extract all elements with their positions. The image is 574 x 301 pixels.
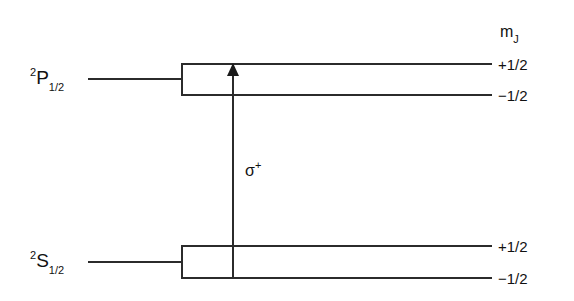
polarization-sigma: σ bbox=[245, 162, 255, 179]
mj-header-symbol: m bbox=[500, 23, 513, 40]
sublevel-line-lower-plus-half bbox=[181, 245, 492, 247]
mj-column-header: mJ bbox=[500, 24, 519, 43]
transition-arrow-head bbox=[227, 63, 239, 76]
level-box-left-edge-upper bbox=[181, 63, 183, 95]
polarization-charge: + bbox=[255, 159, 261, 171]
mj-label-upper-plus-half: +1/2 bbox=[498, 57, 528, 72]
mj-label-lower-minus-half: −1/2 bbox=[498, 271, 528, 286]
term-symbol-upper: 2P1/2 bbox=[30, 68, 64, 90]
term-subscript-upper: 1/2 bbox=[49, 81, 64, 93]
term-subscript-lower: 1/2 bbox=[49, 264, 64, 276]
transition-arrow-shaft bbox=[232, 69, 234, 278]
term-letter-lower: S bbox=[36, 250, 49, 271]
sublevel-line-upper-minus-half bbox=[181, 94, 492, 96]
level-box-left-edge-lower bbox=[181, 245, 183, 278]
connector-line-lower bbox=[88, 261, 182, 263]
term-symbol-lower: 2S1/2 bbox=[30, 251, 64, 273]
term-superscript-lower: 2 bbox=[30, 249, 36, 261]
term-letter-upper: P bbox=[36, 67, 49, 88]
polarization-label: σ+ bbox=[245, 161, 261, 179]
term-superscript-upper: 2 bbox=[30, 66, 36, 78]
connector-line-upper bbox=[88, 78, 182, 80]
mj-label-lower-plus-half: +1/2 bbox=[498, 239, 528, 254]
mj-header-subscript: J bbox=[513, 33, 519, 45]
mj-label-upper-minus-half: −1/2 bbox=[498, 88, 528, 103]
sublevel-line-lower-minus-half bbox=[181, 277, 492, 279]
zeeman-level-diagram: 2P1/2 +1/2 −1/2 2S1/2 +1/2 −1/2 σ+ mJ bbox=[0, 0, 574, 301]
